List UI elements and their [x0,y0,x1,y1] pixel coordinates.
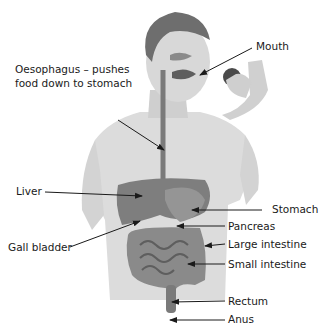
label-anus: Anus [228,313,254,326]
label-pancreas: Pancreas [228,220,275,233]
label-small-intestine: Small intestine [228,258,306,271]
label-oesophagus-line2: food down to stomach [15,77,132,90]
label-large-intestine: Large intestine [228,238,307,251]
head [145,12,210,102]
label-liver: Liver [16,185,42,198]
digestive-system-diagram: Mouth Oesophagus – pushes food down to s… [0,0,326,327]
label-gall-bladder: Gall bladder [8,241,72,254]
label-oesophagus-line1: Oesophagus – pushes [15,63,129,76]
label-mouth: Mouth [256,40,289,53]
intestines [127,227,206,313]
label-stomach: Stomach [272,203,318,216]
label-rectum: Rectum [228,295,268,308]
